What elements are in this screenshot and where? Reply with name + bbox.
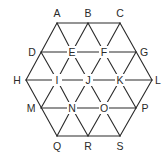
node-f: F (99, 46, 109, 58)
node-label: E (68, 46, 75, 58)
node-e: E (67, 46, 77, 58)
node-label: N (68, 102, 76, 114)
node-s: S (116, 140, 123, 152)
node-label: Q (53, 140, 61, 152)
node-l: L (155, 74, 161, 86)
node-q: Q (53, 140, 61, 152)
node-o: O (99, 102, 109, 114)
node-h: H (13, 74, 21, 86)
node-label: A (53, 7, 60, 19)
node-a: A (53, 7, 60, 19)
node-label: D (28, 46, 36, 58)
node-label: C (116, 7, 124, 19)
node-label: K (116, 74, 123, 86)
node-label: J (85, 74, 90, 86)
node-label: B (84, 7, 91, 19)
node-c: C (116, 7, 124, 19)
node-g: G (140, 46, 148, 58)
node-p: P (141, 102, 148, 114)
node-label: S (116, 140, 123, 152)
node-m: M (27, 102, 36, 114)
node-r: R (84, 140, 92, 152)
node-label: G (140, 46, 148, 58)
node-label: P (141, 102, 148, 114)
node-label: L (155, 74, 161, 86)
node-d: D (28, 46, 36, 58)
node-label: M (27, 102, 36, 114)
node-label: I (56, 74, 59, 86)
node-k: K (115, 74, 125, 86)
node-label: H (13, 74, 21, 86)
node-label: R (84, 140, 92, 152)
node-j: J (83, 74, 93, 86)
hexagon-grid-diagram: ABCDEFGHIJKLMNOPQRS (0, 0, 167, 162)
node-label: O (100, 102, 108, 114)
node-b: B (84, 7, 91, 19)
node-n: N (67, 102, 77, 114)
node-i: I (52, 74, 62, 86)
node-label: F (101, 46, 107, 58)
